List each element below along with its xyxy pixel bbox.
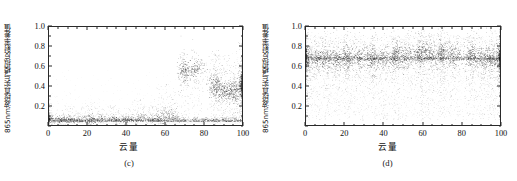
x-tick-mark [126, 26, 127, 30]
x-axis-label-c: 云量 [0, 140, 258, 152]
y-tick-mark [305, 66, 309, 67]
plot-frame-c [48, 26, 243, 126]
y-tick-mark-minor [48, 116, 51, 117]
y-tick-mark [497, 46, 501, 47]
x-tick-label: 0 [303, 129, 307, 138]
x-tick-mark [461, 26, 462, 30]
y-tick-mark-minor [241, 96, 244, 97]
x-tick-mark-minor [145, 26, 146, 29]
x-tick-mark-minor [363, 26, 364, 29]
y-tick-mark-minor [499, 36, 502, 37]
x-tick-mark-minor [223, 124, 224, 127]
x-tick-mark [344, 26, 345, 30]
x-tick-label: 0 [46, 129, 50, 138]
x-tick-mark [305, 122, 306, 126]
x-tick-mark-minor [363, 124, 364, 127]
y-tick-mark-minor [499, 116, 502, 117]
x-tick-label: 40 [379, 129, 387, 138]
x-tick-mark-minor [194, 124, 195, 127]
x-tick-mark-minor [155, 124, 156, 127]
y-tick-mark-minor [241, 36, 244, 37]
y-tick-mark-minor [499, 96, 502, 97]
x-tick-mark-minor [116, 124, 117, 127]
x-tick-mark-minor [106, 26, 107, 29]
x-tick-mark-minor [393, 124, 394, 127]
x-tick-mark [344, 122, 345, 126]
x-tick-mark-minor [106, 124, 107, 127]
figure-container: 865nm波段真实与模拟反射率差值 0.20.40.60.81.00204060… [0, 0, 517, 181]
x-tick-mark-minor [194, 26, 195, 29]
scatter-points-d [306, 27, 500, 125]
x-tick-mark-minor [334, 124, 335, 127]
y-tick-mark-minor [48, 96, 51, 97]
x-tick-mark [204, 122, 205, 126]
x-tick-mark [383, 122, 384, 126]
y-tick-mark-minor [48, 56, 51, 57]
x-tick-mark-minor [145, 124, 146, 127]
y-tick-mark [48, 26, 52, 27]
x-tick-mark-minor [77, 124, 78, 127]
y-tick-mark [497, 106, 501, 107]
y-tick-label: 0.2 [35, 102, 45, 111]
y-tick-mark [48, 66, 52, 67]
x-tick-mark-minor [412, 124, 413, 127]
y-tick-mark [239, 106, 243, 107]
x-tick-mark-minor [135, 124, 136, 127]
y-tick-label: 0.4 [292, 82, 302, 91]
x-tick-mark-minor [116, 26, 117, 29]
chart-panel-d: 865nm波段真实与模拟反射率差值 0.20.40.60.81.00204060… [258, 0, 517, 181]
x-tick-mark-minor [403, 26, 404, 29]
x-tick-mark-minor [314, 124, 315, 127]
x-tick-mark-minor [223, 26, 224, 29]
y-tick-mark-minor [241, 76, 244, 77]
x-tick-mark-minor [96, 26, 97, 29]
y-tick-mark [239, 66, 243, 67]
x-tick-mark-minor [324, 26, 325, 29]
y-tick-label: 0.6 [292, 62, 302, 71]
chart-panel-c: 865nm波段真实与模拟反射率差值 0.20.40.60.81.00204060… [0, 0, 258, 181]
x-tick-mark-minor [393, 26, 394, 29]
x-tick-mark-minor [174, 26, 175, 29]
y-tick-label: 0.6 [35, 62, 45, 71]
y-tick-mark-minor [241, 116, 244, 117]
y-tick-mark-minor [305, 116, 308, 117]
x-tick-mark [87, 26, 88, 30]
x-tick-mark-minor [354, 26, 355, 29]
x-tick-mark [501, 122, 502, 126]
y-tick-mark [305, 86, 309, 87]
panel-label-c: (c) [0, 158, 258, 168]
x-axis-label-d: 云量 [258, 140, 517, 152]
x-tick-mark-minor [155, 26, 156, 29]
x-tick-mark [87, 122, 88, 126]
y-tick-mark-minor [305, 76, 308, 77]
x-tick-mark-minor [491, 26, 492, 29]
y-tick-mark-minor [305, 36, 308, 37]
x-tick-label: 60 [418, 129, 426, 138]
scatter-points-c [49, 27, 242, 125]
y-tick-mark-minor [241, 56, 244, 57]
x-tick-mark-minor [442, 124, 443, 127]
y-tick-label: 0.4 [35, 82, 45, 91]
y-tick-mark [48, 86, 52, 87]
x-tick-mark-minor [373, 124, 374, 127]
y-tick-mark [239, 86, 243, 87]
plot-area-d: 0.20.40.60.81.0020406080100 [305, 26, 501, 126]
x-tick-mark-minor [403, 124, 404, 127]
y-tick-label: 1.0 [292, 22, 302, 31]
y-tick-mark [305, 46, 309, 47]
x-tick-mark [422, 26, 423, 30]
x-tick-mark-minor [452, 26, 453, 29]
x-tick-mark-minor [57, 124, 58, 127]
x-tick-mark-minor [67, 26, 68, 29]
x-tick-mark [165, 122, 166, 126]
x-tick-mark [48, 122, 49, 126]
x-tick-mark-minor [471, 26, 472, 29]
x-tick-mark [165, 26, 166, 30]
x-tick-mark-minor [324, 124, 325, 127]
x-tick-mark-minor [314, 26, 315, 29]
x-tick-mark-minor [491, 124, 492, 127]
y-tick-mark [497, 66, 501, 67]
y-tick-mark-minor [499, 56, 502, 57]
x-tick-label: 100 [495, 129, 508, 138]
x-tick-label: 80 [200, 129, 208, 138]
